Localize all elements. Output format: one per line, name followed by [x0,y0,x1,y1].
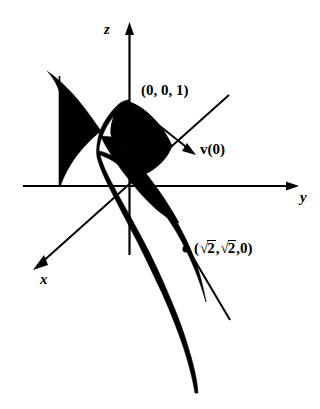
y-axis [23,182,299,191]
coordinate-sketch-svg [0,0,320,409]
x-axis-arrowhead-icon [33,255,48,270]
base-point-radicand-2: 2 [228,240,237,257]
z-axis-arrowhead-icon [125,22,134,35]
velocity-vector-label: v(0) [200,142,225,157]
z-axis-label: z [104,22,110,37]
shaded-surface [48,72,207,394]
velocity-vector-symbol: v [200,141,208,157]
base-point-label: (√2,√2,0) [194,240,252,257]
marked-point-dot [182,245,189,252]
base-point-close-paren: ) [247,240,252,256]
base-point-radical-1: √2 [199,240,216,257]
figure-canvas: z y x (0, 0, 1) v(0) (√2,√2,0) [0,0,320,409]
y-axis-arrowhead-icon [286,182,299,191]
y-axis-label: y [300,190,307,205]
base-point-radical-2: √2 [219,240,236,257]
velocity-vector-arg: (0) [208,141,226,157]
x-axis-label: x [40,272,48,287]
apex-point-label: (0, 0, 1) [141,83,189,98]
shaded-region-left-lobe [48,72,102,187]
base-point-radicand-1: 2 [207,240,216,257]
